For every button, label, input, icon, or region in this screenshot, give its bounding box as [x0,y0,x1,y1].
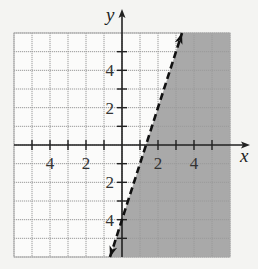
y-axis-label: y [104,4,115,25]
x-tick-label: 4 [190,154,199,173]
y-tick-label: 2 [106,173,115,192]
x-tick-label: 4 [46,154,55,173]
y-tick-label: 4 [106,61,115,80]
x-axis-label: x [239,145,249,166]
inequality-graph: 42244224 x y [0,0,258,269]
y-tick-label: 2 [106,99,115,118]
x-tick-label: 2 [82,154,91,173]
y-tick-label: 4 [106,211,115,230]
x-tick-label: 2 [154,154,163,173]
